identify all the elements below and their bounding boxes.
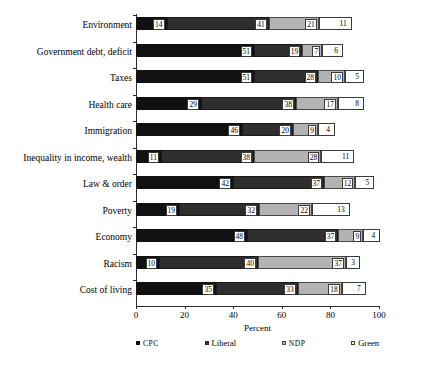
y-axis-tick — [133, 227, 136, 228]
bar-segment-ndp: 9 — [338, 229, 363, 242]
x-axis-title: Percent — [136, 323, 379, 333]
stacked-bar: 2938178 — [136, 97, 364, 110]
legend-item-green[interactable]: Green — [351, 338, 379, 348]
legend-item-cpc[interactable]: CPC — [136, 339, 159, 348]
bar-segment-ndp: 22 — [259, 203, 312, 216]
stacked-bar: 462094 — [136, 123, 335, 136]
bar-segment-ndp: 37 — [258, 256, 346, 269]
segment-value-label: 13 — [336, 205, 346, 214]
y-axis-tick — [133, 95, 136, 96]
x-axis-tickmark — [330, 306, 331, 309]
segment-value-label: 37 — [325, 231, 337, 242]
category-label: Racism — [2, 259, 132, 269]
legend-item-liberal[interactable]: Liberal — [205, 338, 237, 348]
bar-row: Health care2938178 — [136, 94, 379, 120]
segment-value-label: 3 — [350, 258, 356, 267]
segment-value-label: 12 — [342, 178, 354, 189]
bar-segment-cpc: 14 — [136, 17, 167, 30]
segment-value-label: 42 — [219, 178, 231, 189]
stacked-bar: 1040373 — [136, 256, 360, 269]
x-axis-tick-label: 40 — [229, 310, 238, 320]
bar-segment-ndp: 21 — [269, 17, 319, 30]
legend-label: NDP — [289, 339, 306, 348]
segment-value-label: 4 — [325, 125, 331, 134]
category-label: Immigration — [2, 126, 132, 136]
bar-segment-grn: 7 — [342, 282, 366, 295]
y-axis-tick — [133, 174, 136, 175]
y-axis-tick — [133, 201, 136, 202]
y-axis-tick — [133, 121, 136, 122]
chart-legend: CPCLiberalNDPGreen — [136, 338, 379, 348]
bar-segment-grn: 13 — [312, 203, 350, 216]
segment-value-label: 11 — [148, 152, 159, 163]
stacked-bar: 11382811 — [136, 150, 354, 163]
category-label: Cost of living — [2, 285, 132, 295]
bar-segment-grn: 11 — [321, 150, 354, 163]
bar-segment-ndp: 18 — [298, 282, 342, 295]
category-label: Environment — [2, 20, 132, 30]
category-label: Health care — [2, 100, 132, 110]
bar-segment-lib: 41 — [167, 17, 269, 30]
bar-segment-lib: 38 — [201, 97, 296, 110]
stacked-bar: 19322213 — [136, 203, 350, 216]
x-axis-tickmark — [379, 306, 380, 309]
legend-swatch-icon — [205, 341, 209, 345]
category-label: Poverty — [2, 206, 132, 216]
segment-value-label: 51 — [241, 46, 253, 57]
segment-value-label: 9 — [308, 125, 316, 136]
x-axis-tickmark — [282, 306, 283, 309]
segment-value-label: 17 — [324, 99, 336, 110]
segment-value-label: 41 — [255, 19, 267, 30]
segment-value-label: 38 — [282, 99, 294, 110]
segment-value-label: 5 — [354, 72, 360, 81]
bar-row: Inequality in income, wealth11382811 — [136, 147, 379, 173]
segment-value-label: 20 — [279, 125, 291, 136]
legend-swatch-icon — [351, 341, 355, 345]
bar-row: Racism1040373 — [136, 253, 379, 279]
bar-segment-grn: 6 — [322, 44, 343, 57]
category-label: Government debt, deficit — [2, 47, 132, 57]
bar-segment-grn: 4 — [363, 229, 380, 242]
x-axis-tick-label: 20 — [180, 310, 189, 320]
bar-segment-lib: 37 — [233, 176, 324, 189]
bar-segment-ndp: 10 — [318, 70, 345, 83]
x-axis-tick-label: 60 — [277, 310, 286, 320]
bar-segment-ndp: 28 — [254, 150, 321, 163]
segment-value-label: 28 — [308, 152, 320, 163]
bar-segment-lib: 33 — [216, 282, 298, 295]
stacked-bar: 483794 — [136, 229, 380, 242]
segment-value-label: 32 — [245, 205, 257, 216]
plot-area: Environment14412111Government debt, defi… — [136, 14, 379, 306]
x-axis-line — [136, 306, 379, 307]
bar-segment-grn: 3 — [346, 256, 360, 269]
legend-swatch-icon — [282, 341, 286, 345]
bar-segment-cpc: 19 — [136, 203, 179, 216]
segment-value-label: 29 — [187, 99, 199, 110]
y-axis-tick — [133, 254, 136, 255]
bar-segment-ndp: 12 — [324, 176, 355, 189]
segment-value-label: 37 — [311, 178, 323, 189]
bar-segment-lib: 40 — [159, 256, 258, 269]
bar-segment-lib: 32 — [179, 203, 259, 216]
bar-segment-grn: 4 — [318, 123, 335, 136]
segment-value-label: 6 — [333, 46, 339, 55]
y-axis-tick — [133, 42, 136, 43]
stacked-bar: 511976 — [136, 44, 343, 57]
bar-row: Poverty19322213 — [136, 200, 379, 226]
segment-value-label: 18 — [328, 284, 340, 295]
segment-value-label: 10 — [331, 72, 343, 83]
bar-segment-cpc: 29 — [136, 97, 201, 110]
bar-segment-cpc: 48 — [136, 229, 247, 242]
legend-label: Liberal — [212, 338, 237, 348]
bar-row: Law & order4237125 — [136, 173, 379, 199]
y-axis-tick — [133, 68, 136, 69]
x-axis-tick-label: 100 — [372, 310, 386, 320]
segment-value-label: 8 — [354, 99, 360, 108]
segment-value-label: 21 — [305, 19, 317, 30]
segment-value-label: 37 — [332, 258, 344, 269]
legend-swatch-icon — [136, 341, 140, 345]
legend-label: Green — [358, 338, 379, 348]
legend-item-ndp[interactable]: NDP — [282, 339, 306, 348]
x-axis-tickmark — [233, 306, 234, 309]
category-label: Taxes — [2, 73, 132, 83]
